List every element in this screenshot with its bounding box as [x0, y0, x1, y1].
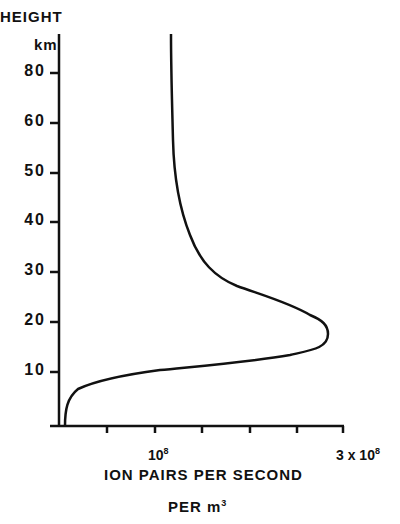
- y-tick-label-50: 50: [6, 162, 46, 180]
- x-axis-title-line2: PER m3: [168, 498, 227, 515]
- x-tick-mantissa: 10: [148, 447, 164, 463]
- y-tick-label-80: 80: [6, 62, 46, 80]
- x-axis-title-line1: ION PAIRS PER SECOND: [104, 466, 303, 483]
- y-tick-label-60: 60: [6, 112, 46, 130]
- x-axis-title-text: PER m: [168, 498, 221, 515]
- x-tick-label-3e8: 3 x 108: [336, 446, 380, 463]
- x-tick-mantissa: 3 x 10: [336, 447, 375, 463]
- y-tick-label-30: 30: [6, 261, 46, 279]
- y-ticks: [50, 73, 59, 372]
- x-tick-exponent: 8: [375, 446, 380, 456]
- y-tick-label-40: 40: [6, 211, 46, 229]
- x-tick-label-1e8: 108: [148, 446, 169, 463]
- x-axis-title-exponent: 3: [221, 498, 227, 508]
- ionization-curve: [65, 34, 328, 426]
- x-tick-exponent: 8: [164, 446, 169, 456]
- y-tick-label-20: 20: [6, 311, 46, 329]
- y-tick-label-10: 10: [6, 361, 46, 379]
